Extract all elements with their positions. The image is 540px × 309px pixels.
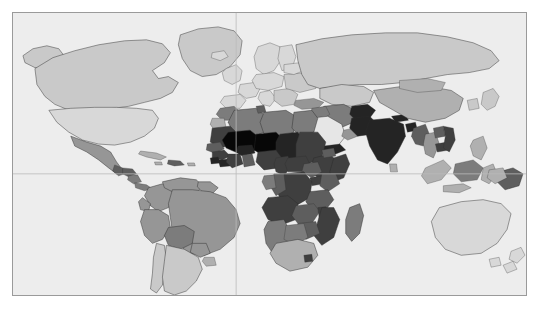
world-map-figure [0, 0, 540, 309]
world-map-svg [13, 13, 526, 295]
country-lesotho [304, 254, 313, 262]
country-puerto-rico [187, 163, 195, 166]
country-srilanka [390, 164, 398, 172]
country-tasmania [489, 257, 501, 267]
country-eritrea-djibouti [322, 148, 336, 158]
country-korea [467, 98, 479, 110]
map-frame [12, 12, 527, 296]
country-jamaica [154, 162, 162, 165]
country-laos [433, 126, 445, 138]
